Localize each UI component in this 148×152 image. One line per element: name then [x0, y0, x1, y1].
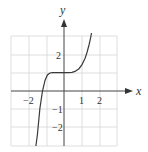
y-tick-neg2: −2: [52, 122, 63, 133]
cubic-function-graph: x y −2 1 2 2 −1 −2: [0, 0, 148, 152]
y-axis-label: y: [59, 3, 66, 17]
y-tick-neg1: −1: [52, 104, 63, 115]
x-tick-1: 1: [79, 95, 84, 106]
x-axis-label: x: [135, 84, 142, 98]
x-tick-2: 2: [97, 95, 102, 106]
y-tick-2: 2: [56, 50, 61, 61]
y-axis-arrow-icon: [61, 19, 67, 27]
x-tick-neg2: −2: [23, 95, 34, 106]
x-axis-arrow-icon: [125, 88, 133, 94]
